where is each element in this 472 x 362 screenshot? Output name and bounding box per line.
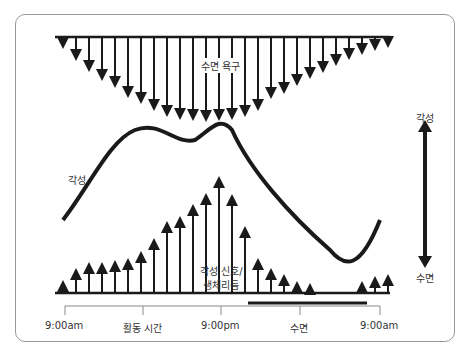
axis-sleep-label: 수면 [416, 270, 434, 285]
axis-wake-label: 각성 [416, 110, 434, 125]
sleep-drive-label: 수면 욕구 [201, 58, 240, 73]
tick-label-2: 9:00pm [201, 320, 240, 331]
alert-signal-label-1: 각성 신호/ [200, 263, 243, 278]
tick-label-4: 9:00am [360, 320, 398, 331]
tick-label-1: 활동 시간 [123, 320, 162, 335]
tick-label-3: 수면 [290, 320, 308, 335]
tick-label-0: 9:00am [45, 320, 83, 331]
alert-signal-label-2: 생체리듬 [203, 277, 239, 292]
wake-curve-label: 각성 [68, 172, 86, 187]
